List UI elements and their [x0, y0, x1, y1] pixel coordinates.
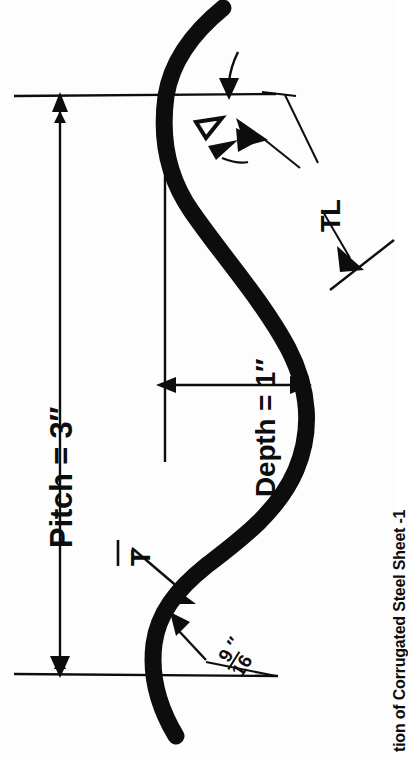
crest-angle-annotation	[196, 52, 260, 163]
thickness-label: T	[128, 550, 155, 566]
arrow-down-icon	[219, 78, 239, 100]
depth-label: Depth = 1″	[252, 359, 280, 497]
tangent-length-dimension	[236, 92, 394, 290]
figure-caption: tion of Corrugated Steel Sheet -1	[392, 510, 408, 752]
arrow-inner-icon	[208, 140, 238, 160]
triangle-angle-icon	[196, 118, 222, 138]
pitch-dimension	[50, 92, 70, 678]
tangent-length-label: TL	[318, 199, 345, 232]
depth-dimension	[156, 376, 312, 394]
pitch-label: Pitch = 3″	[46, 407, 77, 548]
